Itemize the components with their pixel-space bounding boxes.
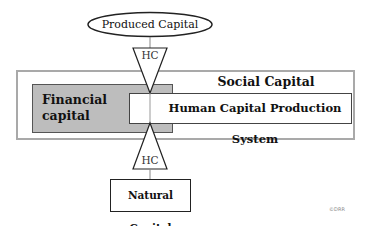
natural-capital-label: Natural Capital [110,179,191,212]
copyright-mark: ©DRR [322,206,352,212]
produced-capital-label: Produced Capital [88,13,212,37]
hc-label-bottom: HC [136,154,164,166]
hc-label-top: HC [136,49,164,61]
